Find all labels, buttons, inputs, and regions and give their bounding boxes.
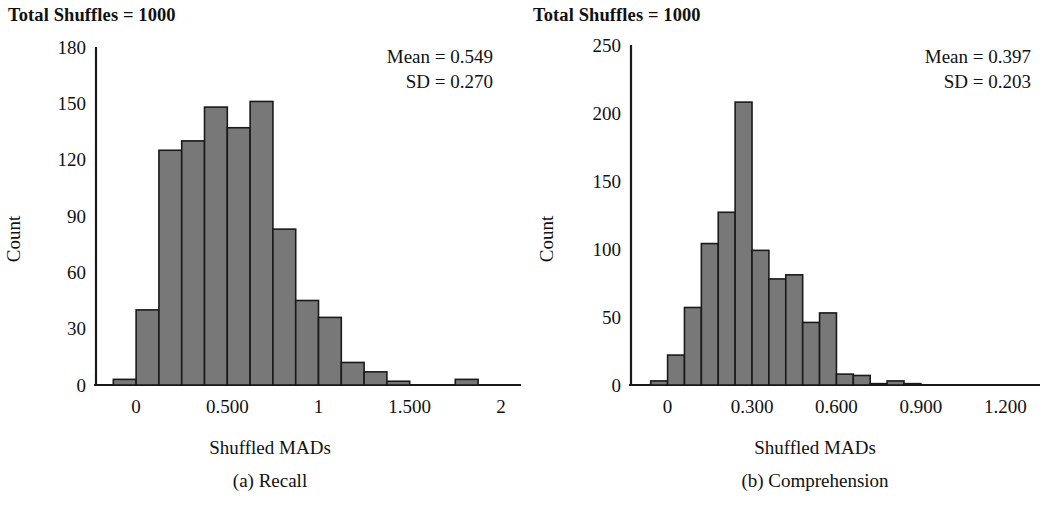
histogram-bar (273, 229, 296, 385)
histogram-bar (319, 317, 342, 385)
histogram-bar (684, 307, 701, 385)
histogram-plot-recall: 030609012015018000.50011.5002 (0, 0, 525, 440)
y-tick-label: 150 (593, 171, 622, 192)
histogram-bar (387, 381, 410, 385)
y-tick-label: 250 (593, 35, 622, 56)
x-tick-label: 1 (314, 396, 324, 417)
y-tick-label: 90 (67, 206, 86, 227)
y-tick-label: 200 (593, 103, 622, 124)
x-tick-label: 0.300 (731, 396, 774, 417)
x-tick-label: 1.500 (388, 396, 431, 417)
y-tick-label: 0 (612, 375, 622, 396)
histogram-bar (455, 379, 478, 385)
histogram-bar (227, 128, 250, 385)
histogram-bar (364, 372, 387, 385)
y-tick-label: 0 (77, 375, 87, 396)
histogram-bar (853, 375, 870, 385)
y-tick-label: 180 (58, 37, 87, 58)
histogram-bar (836, 374, 853, 385)
histogram-bar (250, 101, 273, 385)
histogram-bar (341, 362, 364, 385)
histogram-bar (803, 322, 820, 385)
y-tick-label: 30 (67, 318, 86, 339)
histogram-bar (904, 384, 921, 385)
histogram-bar (718, 212, 735, 385)
histogram-bar (735, 102, 752, 385)
y-tick-label: 50 (602, 307, 621, 328)
x-tick-label: 0.500 (206, 396, 249, 417)
panel-caption: (a) Recall (120, 470, 420, 492)
panel-comprehension: Total Shuffles = 1000 Mean = 0.397 SD = … (525, 0, 1051, 514)
y-tick-label: 150 (58, 93, 87, 114)
histogram-bar (870, 384, 887, 385)
histogram-bar (296, 301, 319, 386)
histogram-bar (668, 355, 685, 385)
x-tick-label: 0 (131, 396, 141, 417)
x-tick-label: 0 (663, 396, 673, 417)
histogram-bar (786, 275, 803, 385)
histogram-bar (769, 279, 786, 385)
x-tick-label: 0.600 (815, 396, 858, 417)
panel-caption: (b) Comprehension (655, 470, 975, 492)
x-tick-label: 1.200 (984, 396, 1027, 417)
histogram-plot-comprehension: 05010015020025000.3000.6000.9001.200 (525, 0, 1051, 440)
x-axis-label: Shuffled MADs (120, 437, 420, 459)
histogram-bar (113, 379, 136, 385)
panel-recall: Total Shuffles = 1000 Mean = 0.549 SD = … (0, 0, 525, 514)
y-tick-label: 100 (593, 239, 622, 260)
histogram-bar (136, 310, 159, 385)
histogram-bar (820, 313, 837, 385)
histogram-bar (651, 381, 668, 385)
y-tick-label: 60 (67, 262, 86, 283)
y-tick-label: 120 (58, 149, 87, 170)
figure-container: Total Shuffles = 1000 Mean = 0.549 SD = … (0, 0, 1051, 514)
x-axis-label: Shuffled MADs (665, 437, 965, 459)
histogram-bar (701, 244, 718, 385)
x-tick-label: 0.900 (899, 396, 942, 417)
x-tick-label: 2 (496, 396, 506, 417)
histogram-bar (205, 107, 228, 385)
histogram-bar (752, 250, 769, 385)
histogram-bar (887, 381, 904, 385)
histogram-bar (182, 141, 205, 385)
histogram-bar (159, 150, 182, 385)
